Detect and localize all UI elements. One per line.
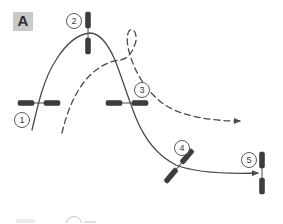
marker-5-label: 5 [246,155,251,165]
marker-5-bar-bottom [260,178,265,194]
panel-letter-badge: A [13,12,33,31]
marker-3-label: 3 [139,85,144,95]
marker-2-label: 2 [71,16,76,26]
marker-2-bar-top [86,12,91,28]
diagram-canvas: A 1 2 3 [0,0,283,223]
cropped-panel-letter-box [16,219,35,223]
figure-panel-a: A 1 2 3 [0,0,283,223]
marker-4-label: 4 [179,143,184,153]
marker-4-badge: 4 [175,141,190,156]
marker-5-bar-top [260,152,265,168]
marker-3-bar-left [106,101,122,106]
cropped-next-panel [16,217,96,224]
cropped-marker-circle [67,217,82,224]
marker-1-label: 1 [19,115,24,125]
marker-4-bar-left [164,167,179,183]
panel-letter-label: A [18,12,29,29]
marker-1-bar-right [44,101,60,106]
marker-1[interactable]: 1 [15,101,61,128]
marker-2-bar-bottom [86,38,91,54]
marker-1-bar-left [18,101,34,106]
marker-3-bar-right [132,101,148,106]
